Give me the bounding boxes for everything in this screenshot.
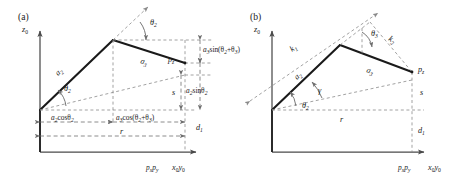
panel-a-z-label: z0 xyxy=(21,25,28,35)
panel-b-z-label: z0 xyxy=(253,25,260,35)
panel-b-link-a3 xyxy=(340,45,412,72)
panel-a-a3cos-label: a3cos(θ2+θ3) xyxy=(116,113,155,123)
panel-a-a3sin-label: a3sin(θ2+θ3) xyxy=(203,45,240,55)
panel-b-wrist-point xyxy=(411,71,414,74)
panel-a-link-a2 xyxy=(40,40,113,110)
panel-a-caption: (a) xyxy=(18,11,29,23)
panel-a-a2sin-label: a2sinθ2 xyxy=(186,86,208,96)
panel-b-p-xy-label: pxpy xyxy=(397,163,411,173)
panel-b-theta3-label: θ3 xyxy=(371,29,378,39)
panel-a-pz-label: pz xyxy=(167,55,175,65)
panel-b-s-label: s xyxy=(420,88,423,97)
panel-a-reach-line xyxy=(40,75,185,110)
panel-a-a2cos-label: a2cosθ2 xyxy=(51,113,74,123)
panel-b-k1-line xyxy=(250,13,378,101)
panel-a-theta2-top-label: θ2 xyxy=(150,18,157,28)
panel-a-a3-label: a3 xyxy=(139,56,149,68)
panel-a-wrist-point xyxy=(184,62,187,65)
panel-b-gamma-label: γ xyxy=(318,86,322,95)
panel-b-k1-label: k1 xyxy=(288,42,299,54)
panel-a-theta2-label: θ2 xyxy=(64,84,71,94)
kinematics-figure: (a) z0 x0y0 pxpy xyxy=(0,0,464,182)
panel-b-d1-label: d1 xyxy=(418,126,425,136)
panel-b-theta2-label: θ2 xyxy=(302,101,309,111)
panel-a-theta2-top-arc xyxy=(140,22,146,40)
panel-b-a3-label: a3 xyxy=(365,65,375,77)
panel-a-a2-label: a2 xyxy=(53,66,65,78)
panel-b-reach-line xyxy=(272,80,412,110)
panel-b-r-label: r xyxy=(340,115,344,124)
diagram-canvas: (a) z0 x0y0 pxpy xyxy=(0,0,464,182)
panel-a-a2-extension xyxy=(113,7,148,40)
panel-a: (a) z0 x0y0 pxpy xyxy=(18,7,240,173)
panel-a-s-label: s xyxy=(172,88,175,97)
panel-a-x-label: x0y0 xyxy=(171,163,185,173)
panel-a-d1-label: d1 xyxy=(196,123,203,133)
panel-a-r-label: r xyxy=(120,127,124,136)
panel-b-k2-label: k2 xyxy=(386,34,397,46)
panel-a-p-xy-label: pxpy xyxy=(145,163,159,173)
panel-b-pz-label: pz xyxy=(417,65,425,75)
panel-b-elbow-apex-ref xyxy=(340,22,370,45)
panel-b-caption: (b) xyxy=(250,11,261,23)
panel-b-x-label: x0y0 xyxy=(427,163,441,173)
panel-b-theta2-arc xyxy=(290,92,296,106)
panel-b: (b) z0 x0y0 pxpy xyxy=(250,11,441,173)
